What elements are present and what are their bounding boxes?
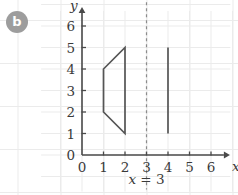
y-axis-tick-labels: 0123456 xyxy=(66,18,75,163)
x-axis-label: x xyxy=(232,158,238,174)
figure-root: b 0123456 0123456 x y x = 3 xyxy=(0,0,238,195)
y-tick-label: 5 xyxy=(66,40,75,56)
mirror-line-label: x = 3 xyxy=(128,171,164,187)
y-tick-label: 3 xyxy=(66,83,75,99)
y-axis-arrowhead xyxy=(79,7,86,13)
coordinate-plane: 0123456 0123456 x y x = 3 xyxy=(0,0,238,195)
y-tick-label: 1 xyxy=(66,126,75,142)
x-tick-label: 5 xyxy=(185,159,194,175)
equation-value: 3 xyxy=(156,171,165,187)
x-tick-label: 6 xyxy=(207,159,216,175)
y-tick-label: 2 xyxy=(66,104,75,120)
x-tick-label: 1 xyxy=(99,159,108,175)
y-tick-label: 6 xyxy=(66,18,75,34)
axes-group xyxy=(79,7,230,158)
equation-relation: = xyxy=(136,171,156,187)
mirror-line-equation: x = 3 xyxy=(128,171,164,187)
x-tick-label: 0 xyxy=(78,159,87,175)
x-axis-arrowhead xyxy=(224,152,230,159)
y-tick-label: 4 xyxy=(66,61,75,77)
x-tick-label: 4 xyxy=(164,159,173,175)
y-tick-label: 0 xyxy=(66,147,75,163)
y-axis-label: y xyxy=(69,0,78,13)
